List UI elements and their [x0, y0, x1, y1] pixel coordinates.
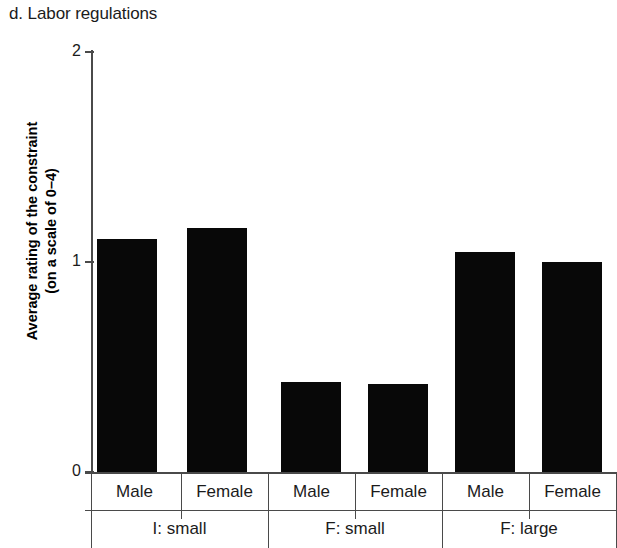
x-axis-group-divider [91, 510, 92, 548]
x-group-label-i-small: I: small [91, 510, 268, 548]
x-label-f-small-male: Male [268, 474, 355, 510]
x-label-i-small-female: Female [181, 474, 268, 510]
bar-f-large-male [455, 252, 515, 473]
x-axis-group-divider [442, 510, 443, 548]
x-axis-label-tiers: Male Female Male Female Male Female I: s… [85, 474, 617, 548]
bar-slot [368, 52, 428, 472]
x-label-f-large-male: Male [442, 474, 529, 510]
x-axis-divider [91, 474, 92, 510]
bar-slot [187, 52, 247, 472]
x-axis-divider [442, 474, 443, 510]
x-label-f-large-female: Female [529, 474, 616, 510]
x-label-f-small-female: Female [355, 474, 442, 510]
x-axis-tick-stub [181, 510, 182, 519]
x-label-i-small-male: Male [91, 474, 178, 510]
x-axis-tick-stub [529, 510, 530, 519]
bar-i-small-male [97, 239, 157, 472]
bar-f-small-male [281, 382, 341, 472]
bar-i-small-female [187, 228, 247, 472]
x-axis-tick-stub [355, 510, 356, 519]
x-axis-divider [355, 474, 356, 510]
bar-slot [542, 52, 602, 472]
bar-slot [455, 52, 515, 472]
x-axis-divider [268, 474, 269, 510]
x-axis-sub-label-row: Male Female Male Female Male Female [85, 474, 617, 510]
bar-slot [281, 52, 341, 472]
x-axis-group-divider [268, 510, 269, 548]
bar-f-large-female [542, 262, 602, 472]
x-axis-group-label-row: I: small F: small F: large [85, 510, 617, 548]
bar-slot [97, 52, 157, 472]
chart-title: d. Labor regulations [9, 4, 157, 24]
bar-f-small-female [368, 384, 428, 472]
bars-layer [0, 52, 617, 472]
chart-figure: d. Labor regulations Average rating of t… [0, 0, 617, 548]
x-axis-divider [181, 474, 182, 510]
x-axis-divider [529, 474, 530, 510]
